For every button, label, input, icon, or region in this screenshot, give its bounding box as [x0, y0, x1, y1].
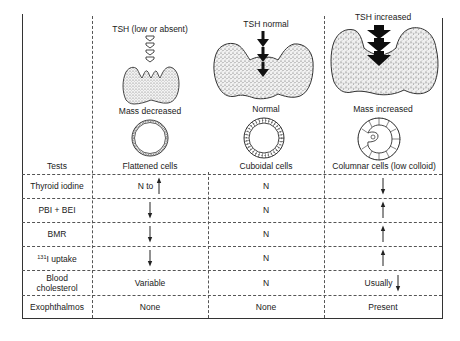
value-decreased [92, 246, 208, 270]
mass-label: Mass increased [333, 104, 433, 114]
arrow-down-icon [147, 249, 153, 267]
cell-type-label: Flattened cells [100, 161, 200, 171]
arrow-up-icon [156, 177, 162, 195]
arrow-down-icon [380, 177, 386, 195]
arrow-up-icon [380, 201, 386, 219]
cell-type-label: Cuboidal cells [216, 161, 316, 171]
follicle-cuboidal-icon [242, 116, 286, 160]
mass-label: Mass decreased [100, 106, 200, 116]
tests-header: Tests [22, 161, 92, 171]
value-normal: None [208, 295, 324, 318]
solid-arrows-icon [255, 30, 271, 80]
value-increased: Usually [324, 270, 442, 295]
value-decreased: N to [92, 174, 208, 198]
value-decreased: None [92, 295, 208, 318]
value-normal: N [208, 198, 324, 222]
arrow-down-icon [147, 201, 153, 219]
value-increased [324, 198, 442, 222]
arrow-down-icon [147, 225, 153, 243]
test-name: Exophthalmos [22, 295, 92, 318]
value-decreased [92, 198, 208, 222]
tsh-label: TSH normal [216, 19, 316, 29]
test-name: Thyroid iodine [22, 174, 92, 198]
thyroid-small-icon [120, 64, 182, 106]
value-decreased: Variable [92, 270, 208, 295]
value-normal: N [208, 270, 324, 295]
follicle-flattened-icon [130, 118, 170, 158]
tsh-label: TSH increased [333, 12, 433, 22]
value-decreased [92, 222, 208, 246]
value-increased: Present [324, 295, 442, 318]
value-increased [324, 222, 442, 246]
value-normal: N [208, 246, 324, 270]
value-increased [324, 246, 442, 270]
cell-type-label: Columnar cells (low colloid) [326, 161, 442, 171]
follicle-columnar-icon [356, 116, 402, 162]
right-border [442, 18, 443, 318]
value-increased [324, 174, 442, 198]
value-normal: N [208, 174, 324, 198]
bold-arrows-icon [366, 24, 392, 68]
test-name: 131I uptake [22, 246, 92, 270]
test-name: PBI + BEI [22, 198, 92, 222]
arrow-up-icon [380, 249, 386, 267]
value-normal: N [208, 222, 324, 246]
arrow-down-icon [395, 274, 401, 292]
tsh-label: TSH (low or absent) [100, 24, 200, 34]
hollow-arrows-icon [141, 35, 159, 65]
test-name: BMR [22, 222, 92, 246]
mass-label: Normal [216, 104, 316, 114]
arrow-up-icon [380, 225, 386, 243]
bottom-border [22, 318, 443, 319]
test-name: Blood cholesterol [22, 270, 92, 295]
